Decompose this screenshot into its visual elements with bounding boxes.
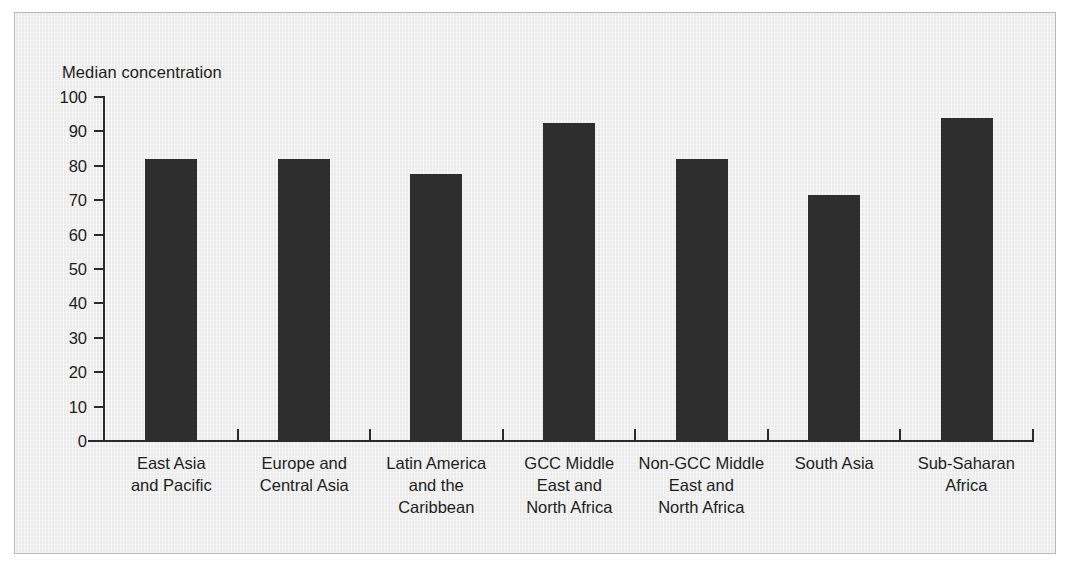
y-tick-10 xyxy=(94,406,105,408)
y-tick-label-80: 80 xyxy=(41,158,87,175)
y-tick-30 xyxy=(94,337,105,339)
x-category-label: Sub-SaharanAfrica xyxy=(883,453,1050,497)
y-tick-label-40: 40 xyxy=(41,295,87,312)
y-tick-label-30: 30 xyxy=(41,330,87,347)
y-tick-70 xyxy=(94,199,105,201)
y-tick-label-90: 90 xyxy=(41,123,87,140)
y-tick-100 xyxy=(94,96,105,98)
x-category-label-line: Sub-Saharan xyxy=(883,453,1050,475)
x-category-label-line: Africa xyxy=(883,475,1050,497)
x-tick-6 xyxy=(899,429,901,441)
y-tick-0 xyxy=(94,440,105,442)
x-tick-1 xyxy=(237,429,239,441)
x-category-label-line: East and xyxy=(618,475,785,497)
x-tick-7 xyxy=(1032,429,1034,441)
bar xyxy=(278,159,330,441)
y-tick-label-100: 100 xyxy=(41,89,87,106)
y-tick-label-0: 0 xyxy=(41,433,87,450)
plot-area: 0102030405060708090100 East Asiaand Paci… xyxy=(15,13,1057,555)
x-tick-2 xyxy=(369,429,371,441)
y-tick-80 xyxy=(94,165,105,167)
y-tick-60 xyxy=(94,234,105,236)
bar xyxy=(676,159,728,441)
y-tick-label-20: 20 xyxy=(41,364,87,381)
x-tick-4 xyxy=(634,429,636,441)
x-tick-3 xyxy=(502,429,504,441)
y-tick-50 xyxy=(94,268,105,270)
bar xyxy=(145,159,197,441)
y-tick-20 xyxy=(94,371,105,373)
figure-panel: Median concentration 0102030405060708090… xyxy=(14,12,1056,554)
bar xyxy=(808,195,860,441)
x-category-label-line: North Africa xyxy=(618,497,785,519)
y-tick-label-70: 70 xyxy=(41,192,87,209)
bar xyxy=(543,123,595,441)
y-tick-40 xyxy=(94,302,105,304)
y-tick-label-50: 50 xyxy=(41,261,87,278)
x-tick-5 xyxy=(767,429,769,441)
y-tick-label-60: 60 xyxy=(41,227,87,244)
y-tick-label-10: 10 xyxy=(41,399,87,416)
bar xyxy=(410,174,462,441)
bar xyxy=(941,118,993,441)
y-tick-90 xyxy=(94,130,105,132)
